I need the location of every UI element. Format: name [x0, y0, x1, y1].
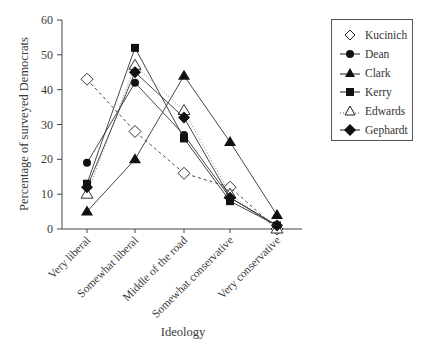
open-diamond-icon — [81, 73, 93, 85]
y-tick-label: 10 — [41, 187, 53, 201]
legend-item-gephardt: Gephardt — [338, 121, 408, 139]
y-tick-label: 0 — [47, 222, 53, 236]
legend-label: Clark — [365, 67, 391, 79]
series-layer — [81, 44, 283, 235]
y-tick-label: 50 — [41, 48, 53, 62]
series-line — [87, 79, 277, 229]
y-tick-label: 60 — [41, 13, 53, 27]
legend-item-edwards: Edwards — [338, 102, 405, 120]
legend-label: Kucinich — [365, 29, 407, 41]
legend-label: Edwards — [365, 105, 405, 117]
filled-circle-icon — [338, 47, 362, 61]
legend-item-kerry: Kerry — [338, 83, 392, 101]
filled-diamond-icon — [338, 123, 362, 137]
series-clark — [81, 70, 283, 219]
open-triangle-icon — [338, 104, 362, 118]
filled-square-icon — [338, 85, 362, 99]
legend-item-dean: Dean — [338, 45, 389, 63]
filled-triangle-icon — [338, 66, 362, 80]
series-kerry — [83, 44, 281, 230]
x-axis-title: Ideology — [161, 325, 206, 339]
filled-diamond-icon — [81, 181, 93, 193]
series-line — [87, 72, 277, 225]
open-diamond-icon — [178, 167, 190, 179]
y-tick-label: 30 — [41, 118, 53, 132]
open-diamond-icon — [338, 28, 362, 42]
y-axis-title: Percentage of surveyed Democrats — [17, 37, 31, 211]
axes: 0102030405060Very liberalSomewhat libera… — [41, 13, 302, 320]
series-gephardt — [81, 66, 283, 231]
filled-triangle-icon — [129, 153, 141, 163]
filled-circle-icon — [83, 159, 91, 167]
x-tick-label: Somewhat conservative — [149, 234, 235, 320]
legend-item-kucinich: Kucinich — [338, 26, 407, 44]
series-dean — [83, 79, 281, 230]
open-diamond-icon — [129, 125, 141, 137]
y-tick-label: 40 — [41, 83, 53, 97]
series-edwards — [81, 59, 283, 233]
legend-label: Kerry — [365, 86, 392, 98]
filled-square-icon — [180, 134, 188, 142]
filled-triangle-icon — [271, 209, 283, 219]
legend-item-clark: Clark — [338, 64, 391, 82]
series-line — [87, 65, 277, 229]
legend-label: Gephardt — [365, 124, 408, 136]
filled-triangle-icon — [178, 70, 190, 80]
filled-triangle-icon — [224, 136, 236, 146]
y-tick-label: 20 — [41, 152, 53, 166]
filled-diamond-icon — [224, 192, 236, 204]
series-line — [87, 76, 277, 215]
filled-square-icon — [131, 44, 139, 52]
legend: Kucinich Dean Clark Kerry Edwards Gephar… — [331, 19, 413, 141]
x-tick-label: Very liberal — [46, 234, 93, 281]
legend-label: Dean — [365, 48, 389, 60]
